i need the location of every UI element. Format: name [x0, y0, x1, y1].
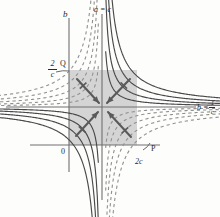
p-tick-curve — [143, 143, 150, 150]
two-over-c-numerator: 2 — [48, 60, 57, 68]
label-point-p: P — [151, 145, 155, 153]
label-two-c: 2c — [135, 158, 143, 166]
label-point-q: Q — [60, 60, 66, 68]
hyperbola-diagram-svg — [0, 0, 220, 217]
q-tick-curve — [56, 71, 69, 72]
label-two-over-c: 2 c — [48, 60, 57, 79]
label-origin: 0 — [61, 148, 65, 156]
axes-group — [6, 14, 196, 200]
one-over-c-fraction: 1 c — [209, 100, 215, 116]
two-over-c-denominator: c — [48, 71, 57, 79]
b-equals-text: b = — [197, 103, 208, 112]
one-over-c-numerator: 1 — [209, 100, 215, 107]
figure-canvas: b a = c 2 c Q b = 1 c 0 P 2c — [0, 0, 220, 217]
label-a-equals-c: a = c — [94, 6, 111, 14]
label-b-axis: b — [63, 10, 68, 19]
one-over-c-denominator: c — [209, 108, 215, 116]
label-b-equals-one-over-c: b = 1 c — [197, 100, 215, 116]
